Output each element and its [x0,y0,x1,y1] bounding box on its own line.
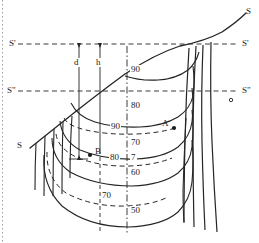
dimension-arrow-d-top [77,43,81,48]
point-b-dot [88,153,92,157]
strata-line-left-1 [35,143,36,190]
figure-canvas: S S S' S' S" S" d h 90 80 70 60 50 90 80… [0,0,259,243]
small-open-circle-marker [229,98,232,101]
point-a-dot [172,126,176,130]
label-s-left: S [16,141,23,150]
label-s-double-prime-left: S" [6,86,17,95]
contour-label-dashed-70: 70 [101,191,112,200]
point-label-a: A [161,119,170,128]
contour-label-solid-50: 50 [130,206,141,215]
contour-solid-80 [71,66,194,127]
strata-line-right-3 [202,45,205,230]
contour-label-dashed-70-partial: 7 [130,153,137,162]
strata-line-left-3 [53,129,54,196]
contour-label-dashed-80: 80 [109,153,120,162]
contour-label-solid-60: 60 [130,168,141,177]
label-s-prime-right: S' [241,39,250,48]
label-dimension-h: h [95,58,102,67]
contour-label-solid-90: 90 [130,65,141,74]
strata-line-left-4 [62,122,63,194]
contour-label-solid-70: 70 [130,138,141,147]
contour-solid-60 [52,110,193,186]
label-s-top-right: S [245,7,252,16]
label-dimension-d: d [73,58,80,67]
strata-line-left-5 [70,116,72,178]
strata-line-right-4 [211,42,217,232]
label-s-double-prime-right: S" [241,86,252,95]
dimension-arrow-h-top [98,43,102,48]
point-label-b: B [94,147,102,156]
contour-label-solid-80: 80 [130,101,141,110]
contour-solid-70 [60,88,193,159]
label-s-prime-left: S' [8,39,17,48]
contour-label-dashed-90: 90 [110,122,121,131]
strata-line-left-2 [44,136,45,196]
